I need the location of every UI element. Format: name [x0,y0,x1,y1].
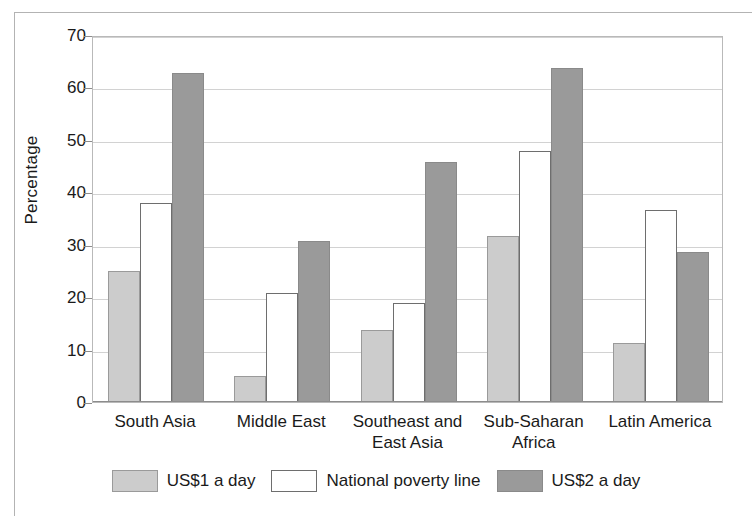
y-tick-label-30: 30 [40,237,86,254]
y-tick-mark-70 [84,36,92,37]
bar [487,236,519,402]
legend-label: US$1 a day [167,471,256,491]
bar [361,330,393,402]
chart-legend: US$1 a dayNational poverty lineUS$2 a da… [0,470,752,492]
legend-item[interactable]: US$1 a day [112,470,256,492]
y-tick-label-20: 20 [40,289,86,306]
y-tick-mark-40 [84,193,92,194]
y-tick-label-40: 40 [40,184,86,201]
y-tick-label-70: 70 [40,27,86,44]
y-tick-mark-30 [84,246,92,247]
figure-border-top [14,12,752,13]
bar [551,68,583,402]
bar [172,73,204,402]
legend-item[interactable]: National poverty line [271,470,480,492]
bar [140,203,172,402]
y-tick-mark-20 [84,298,92,299]
y-tick-mark-60 [84,88,92,89]
light-gray-swatch [112,470,158,492]
bar [393,303,425,402]
legend-item[interactable]: US$2 a day [497,470,641,492]
bar [613,343,645,402]
bar [645,210,677,402]
y-tick-label-50: 50 [40,132,86,149]
y-tick-mark-50 [84,141,92,142]
white-swatch [271,470,317,492]
y-tick-label-60: 60 [40,79,86,96]
bar [519,151,551,402]
x-axis-category-label: South Asia [92,412,218,433]
y-axis-title: Percentage [22,90,42,270]
x-axis-category-label: Sub-Saharan Africa [471,412,597,453]
bar [266,293,298,402]
bar [108,271,140,402]
bar [425,162,457,402]
x-axis-category-label: Middle East [218,412,344,433]
y-tick-mark-0 [84,403,92,404]
y-tick-label-0: 0 [40,394,86,411]
y-tick-label-10: 10 [40,342,86,359]
legend-label: National poverty line [326,471,480,491]
gridline-70 [93,37,722,38]
plot-area [92,36,723,403]
bar [234,376,266,402]
dark-gray-swatch [497,470,543,492]
bar [298,241,330,402]
y-tick-mark-10 [84,351,92,352]
x-axis-category-label: Southeast and East Asia [344,412,470,453]
legend-label: US$2 a day [552,471,641,491]
bar-chart-figure: Percentage 010203040506070 South AsiaMid… [0,0,752,516]
bar [677,252,709,402]
x-axis-category-label: Latin America [597,412,723,433]
x-axis-baseline [93,401,722,402]
figure-border-left [14,12,15,516]
